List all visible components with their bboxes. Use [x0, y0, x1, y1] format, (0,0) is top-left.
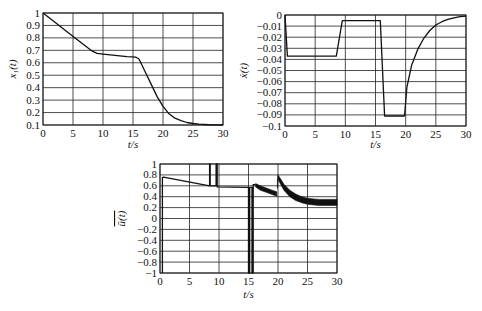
- y-axis-label: x₁(t): [6, 59, 19, 79]
- y-tick-label: −0.1: [262, 120, 282, 132]
- x-tick-label: 30: [332, 275, 344, 287]
- x-tick-label: 30: [461, 128, 473, 140]
- x-tick-label: 5: [312, 128, 318, 140]
- y-axis-label: ẋ(t): [237, 63, 250, 80]
- grid-lines: [285, 15, 466, 126]
- x-tick-label: 10: [340, 128, 352, 140]
- y-axis-label: ū(t): [115, 210, 128, 226]
- y-tick-label: 1: [35, 7, 41, 19]
- x-axis-label: t/s: [243, 288, 253, 300]
- x-tick-label: 0: [40, 127, 46, 139]
- y-tick-label: 0.2: [26, 106, 40, 118]
- x-tick-label: 0: [157, 275, 163, 287]
- x-tick-label: 25: [302, 275, 314, 287]
- x-tick-label: 5: [70, 127, 76, 139]
- chart-ubar: 05101520253010.80.60.40.20−0.2−0.4−0.6−0…: [115, 158, 343, 301]
- x-tick-label: 20: [273, 275, 285, 287]
- grid-lines: [43, 13, 223, 125]
- x-tick-label: 0: [282, 128, 288, 140]
- y-tick-label: −1: [145, 267, 157, 279]
- x-axis-label: t/s: [128, 138, 138, 150]
- x-tick-label: 5: [187, 275, 193, 287]
- y-tick-label: 0.7: [26, 44, 40, 56]
- figure-canvas: 0510152025300.10.20.30.40.50.60.70.80.91…: [0, 0, 482, 311]
- y-tick-label: 0.1: [26, 119, 40, 131]
- x-tick-label: 10: [98, 127, 110, 139]
- x-tick-label: 20: [158, 127, 170, 139]
- x-axis-label: t/s: [370, 138, 380, 150]
- y-tick-label: 0.3: [26, 94, 40, 106]
- x-tick-label: 10: [214, 275, 226, 287]
- x-tick-label: 30: [218, 127, 230, 139]
- y-tick-label: 0.4: [26, 81, 40, 93]
- chart-x1: 0510152025300.10.20.30.40.50.60.70.80.91…: [6, 7, 229, 151]
- x-tick-label: 15: [243, 275, 255, 287]
- y-tick-label: 0.5: [26, 69, 40, 81]
- chart-xdot: 0510152025300−0.01−0.02−0.03−0.04−0.05−0…: [237, 9, 472, 151]
- x-tick-label: 20: [400, 128, 412, 140]
- y-tick-label: 0.8: [26, 31, 40, 43]
- y-tick-label: 0.6: [26, 56, 40, 68]
- x-tick-label: 25: [188, 127, 200, 139]
- y-tick-label: 0.9: [26, 19, 40, 31]
- x-tick-label: 25: [430, 128, 442, 140]
